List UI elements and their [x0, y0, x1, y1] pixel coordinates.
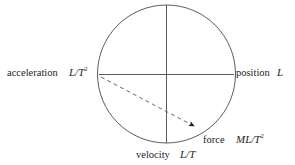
- label-acceleration: acceleration: [7, 68, 58, 79]
- unit-force-exponent: 2: [260, 132, 263, 139]
- unit-force: ML/T2: [236, 134, 264, 145]
- label-velocity: velocity: [136, 150, 170, 161]
- unit-acceleration-base: L/T: [69, 66, 84, 78]
- label-force: force: [203, 135, 225, 146]
- unit-force-base: ML/T: [236, 133, 260, 145]
- unit-velocity-base: L/T: [180, 148, 195, 160]
- unit-position-base: L: [277, 66, 283, 78]
- force-vector-arrow: [101, 77, 194, 126]
- unit-acceleration-exponent: 2: [84, 65, 87, 72]
- unit-acceleration: L/T2: [69, 67, 88, 78]
- unit-velocity: L/T: [180, 149, 195, 160]
- label-position: position: [236, 68, 270, 79]
- unit-position: L: [277, 67, 283, 78]
- dimensional-circle-figure: acceleration L/T2 position L velocity L/…: [0, 0, 295, 165]
